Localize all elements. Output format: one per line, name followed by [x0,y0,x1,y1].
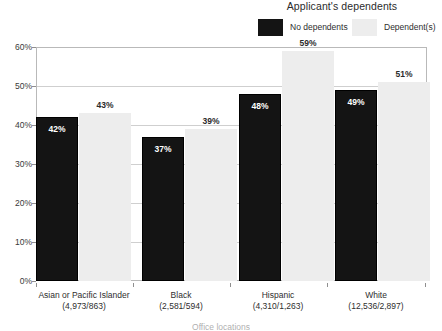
legend-title: Applicant's dependents [242,0,442,12]
bar-value-label: 43% [79,100,131,110]
bar-value-label: 37% [143,144,183,154]
bar-dependents-asian-or-pacific-islander[interactable]: 43% [79,113,131,281]
x-category-name: Asian or Pacific Islander [34,290,134,301]
y-tick-label-30: 30% [4,160,32,169]
x-category-counts: (2,581/594) [131,301,231,312]
x-tick-mark-1 [133,283,134,287]
x-category-counts: (4,973/863) [34,301,134,312]
bar-value-label: 42% [37,124,77,134]
bar-value-label: 51% [378,69,430,79]
x-tick-mark-4 [425,283,426,287]
bar-dependents-white[interactable]: 51% [378,82,430,281]
y-tick-label-40: 40% [4,121,32,130]
y-tick-label-0: 0% [4,277,32,286]
bar-no-dependents-white[interactable]: 49% [335,90,377,281]
bar-no-dependents-hispanic[interactable]: 48% [239,94,281,281]
y-tick-mark-0 [32,281,36,282]
y-tick-label-10: 10% [4,238,32,247]
bar-no-dependents-black[interactable]: 37% [142,137,184,281]
y-tick-label-50: 50% [4,82,32,91]
x-tick-mark-3 [327,283,328,287]
bar-value-label: 59% [282,38,334,48]
bar-no-dependents-asian-or-pacific-islander[interactable]: 42% [36,117,78,281]
bar-series-container: 42% 43% 37% 39% 48% 59% 49% 51% [36,47,427,281]
x-category-black: Black (2,581/594) [131,290,231,312]
x-category-name: Black [131,290,231,301]
legend-entry-dependents[interactable]: Dependent(s) [352,19,436,36]
legend-swatch-no-dependents [258,19,283,36]
footer-caption: Office locations [0,322,442,331]
legend-swatch-dependents [352,19,377,36]
y-tick-label-60: 60% [4,43,32,52]
legend-entry-no-dependents[interactable]: No dependents [258,19,348,36]
x-category-white: White (12,536/2,897) [326,290,426,312]
x-category-name: White [326,290,426,301]
bar-value-label: 48% [240,101,280,111]
legend-label-dependents: Dependent(s) [384,19,436,36]
x-axis: Asian or Pacific Islander (4,973/863) Bl… [36,283,427,323]
x-category-asian-or-pacific-islander: Asian or Pacific Islander (4,973/863) [34,290,134,312]
chart-legend: Applicant's dependents No dependents Dep… [0,0,442,44]
x-tick-mark-0 [36,283,37,287]
x-category-name: Hispanic [228,290,328,301]
x-category-counts: (12,536/2,897) [326,301,426,312]
legend-label-no-dependents: No dependents [290,19,348,36]
x-tick-mark-2 [230,283,231,287]
bar-value-label: 49% [336,97,376,107]
bar-dependents-hispanic[interactable]: 59% [282,51,334,281]
x-category-counts: (4,310/1,263) [228,301,328,312]
y-tick-label-20: 20% [4,199,32,208]
x-category-hispanic: Hispanic (4,310/1,263) [228,290,328,312]
bar-value-label: 39% [185,116,237,126]
bar-dependents-black[interactable]: 39% [185,129,237,281]
